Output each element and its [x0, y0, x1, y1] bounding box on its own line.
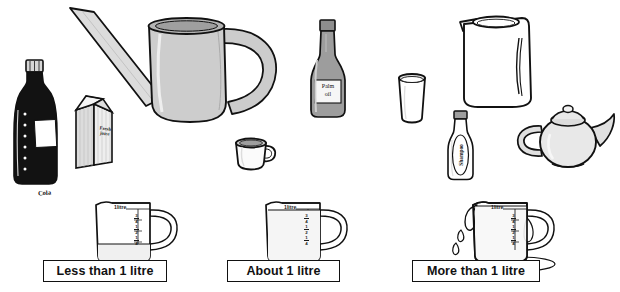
shampoo-bottle-label: Shampoo	[458, 136, 464, 174]
shampoo-bottle: Shampoo	[441, 110, 481, 182]
juice-line-2: juice	[100, 131, 110, 137]
jug-less-mark-quarter: 14	[133, 236, 140, 246]
jug-less-mark-three-quarter: 34	[133, 214, 140, 224]
jug-more-scale-top: 1litre	[491, 204, 503, 210]
label-less-than-1-litre[interactable]: Less than 1 litre	[43, 260, 167, 282]
jug-less-mark-half: 12	[133, 225, 140, 235]
jug-less-scale-top: 1litre	[114, 204, 126, 210]
jug-about-mark-half: 12	[303, 225, 310, 235]
teapot	[514, 100, 616, 172]
jug-about-mark-quarter: 14	[303, 236, 310, 246]
teacup	[231, 134, 279, 174]
water-pitcher	[456, 12, 546, 112]
jug-more-mark-three-quarter: 34	[510, 214, 517, 224]
juice-carton-label: Fresh juice	[94, 125, 115, 138]
label-more-than-1-litre[interactable]: More than 1 litre	[412, 260, 540, 282]
drinking-glass	[392, 70, 432, 125]
label-about-1-litre[interactable]: About 1 litre	[227, 260, 340, 282]
cola-bottle-label: Cola	[38, 189, 51, 197]
jug-about-scale-top: 1litre	[284, 204, 296, 210]
jug-more-mark-quarter: 14	[510, 236, 517, 246]
worksheet-canvas: Cola Fresh juice	[0, 0, 620, 292]
palm-line-1: Palm	[322, 83, 334, 89]
jug-about-mark-three-quarter: 34	[303, 214, 310, 224]
jug-more-mark-half: 12	[510, 225, 517, 235]
measuring-jug-less: 1litre 34 12 14	[88, 198, 188, 268]
palm-oil-label: Palm oil	[315, 83, 341, 98]
measuring-jug-about: 1litre 34 12 14	[258, 198, 358, 268]
palm-oil-bottle: Palm oil	[306, 18, 356, 120]
palm-line-2: oil	[325, 91, 331, 97]
watering-can	[60, 6, 300, 131]
